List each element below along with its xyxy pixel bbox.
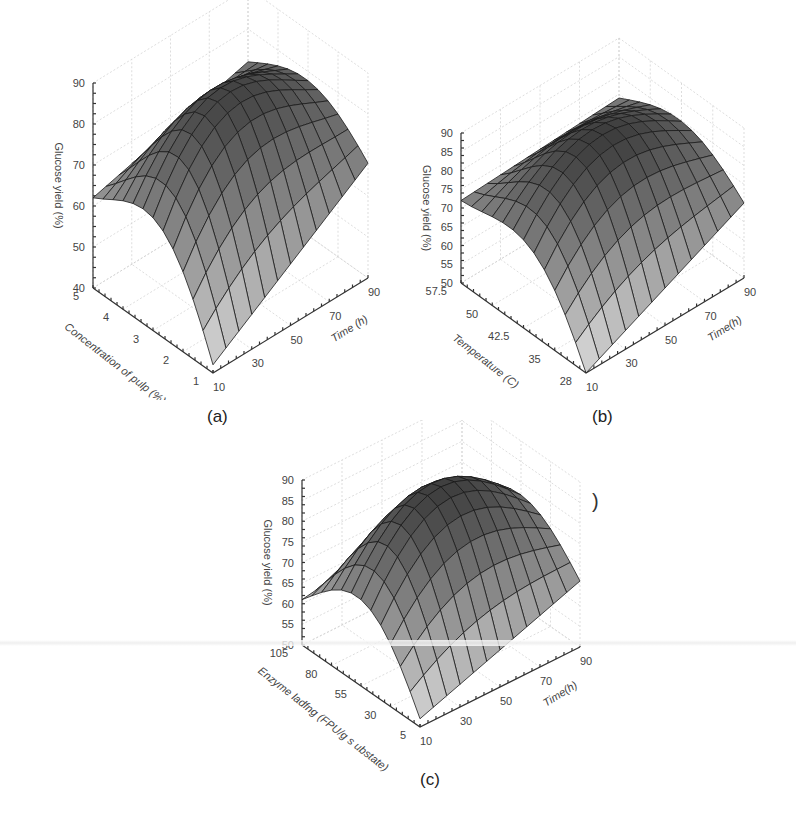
svg-text:Glucose yield (%): Glucose yield (%) [53, 142, 65, 228]
svg-text:10: 10 [420, 735, 432, 747]
svg-text:10: 10 [586, 381, 598, 393]
svg-text:90: 90 [441, 127, 453, 139]
svg-text:Glucose yield (%): Glucose yield (%) [421, 165, 433, 251]
svg-text:50: 50 [73, 241, 85, 253]
svg-text:2: 2 [163, 354, 169, 366]
plot-group: 5055606570758085901030507090283542.55057… [421, 38, 756, 393]
chart-canvas-c: 50556065707580859010305070905305580105Gl… [200, 420, 620, 820]
chart-canvas-a: 405060708090103050709012345Glucose yield… [0, 0, 400, 400]
svg-text:50: 50 [290, 334, 302, 346]
svg-text:90: 90 [368, 286, 380, 298]
svg-text:1: 1 [193, 375, 199, 387]
svg-text:70: 70 [540, 675, 552, 687]
svg-text:3: 3 [133, 333, 139, 345]
svg-text:70: 70 [329, 310, 341, 322]
surface-plot-b: 5055606570758085901030507090283542.55057… [400, 0, 796, 400]
svg-text:55: 55 [441, 258, 453, 270]
svg-text:90: 90 [282, 474, 294, 486]
svg-text:60: 60 [441, 240, 453, 252]
figure-label-b: (b) [592, 407, 613, 427]
svg-text:60: 60 [73, 200, 85, 212]
surface-plot-a: 405060708090103050709012345Glucose yield… [0, 0, 400, 400]
figure-label-c: (c) [420, 770, 440, 790]
svg-text:Glucose yield (%): Glucose yield (%) [262, 519, 274, 605]
svg-text:85: 85 [282, 495, 294, 507]
svg-text:70: 70 [704, 310, 716, 322]
svg-text:5: 5 [73, 290, 79, 302]
svg-text:90: 90 [73, 77, 85, 89]
svg-text:4: 4 [103, 311, 109, 323]
figure-label-a: (a) [207, 407, 228, 427]
surface-plot-c: 50556065707580859010305070905305580105Gl… [200, 420, 620, 820]
svg-text:30: 30 [364, 709, 376, 721]
svg-text:50: 50 [500, 695, 512, 707]
svg-text:90: 90 [744, 286, 756, 298]
svg-text:65: 65 [441, 221, 453, 233]
chart-canvas-b: 5055606570758085901030507090283542.55057… [400, 0, 796, 400]
svg-text:10: 10 [213, 381, 225, 393]
svg-text:105: 105 [270, 647, 288, 659]
svg-text:30: 30 [625, 357, 637, 369]
svg-text:75: 75 [282, 536, 294, 548]
svg-text:70: 70 [441, 202, 453, 214]
stray-parenthesis: ) [592, 490, 599, 513]
svg-text:70: 70 [282, 557, 294, 569]
svg-text:70: 70 [73, 159, 85, 171]
svg-text:85: 85 [441, 146, 453, 158]
svg-text:55: 55 [335, 688, 347, 700]
response-surface [302, 476, 580, 718]
svg-text:80: 80 [73, 118, 85, 130]
svg-text:50: 50 [466, 308, 478, 320]
svg-text:5: 5 [400, 729, 406, 741]
svg-text:80: 80 [441, 165, 453, 177]
svg-text:30: 30 [460, 715, 472, 727]
svg-text:Concentration of pulp (%): Concentration of pulp (%) [63, 320, 169, 400]
svg-text:75: 75 [441, 183, 453, 195]
svg-text:Temperature (C): Temperature (C) [451, 331, 522, 390]
svg-text:80: 80 [305, 668, 317, 680]
svg-text:28: 28 [560, 375, 572, 387]
svg-text:42.5: 42.5 [488, 330, 509, 342]
scan-artifact-line [0, 640, 796, 646]
svg-text:60: 60 [282, 598, 294, 610]
svg-text:65: 65 [282, 577, 294, 589]
svg-text:80: 80 [282, 515, 294, 527]
svg-text:30: 30 [252, 357, 264, 369]
plot-group: 50556065707580859010305070905305580105Gl… [256, 420, 592, 774]
plot-group: 405060708090103050709012345Glucose yield… [53, 0, 380, 400]
svg-text:57.5: 57.5 [426, 285, 447, 297]
svg-text:90: 90 [580, 655, 592, 667]
svg-text:50: 50 [665, 334, 677, 346]
svg-text:55: 55 [282, 618, 294, 630]
svg-text:35: 35 [529, 353, 541, 365]
response-surface [93, 62, 368, 365]
